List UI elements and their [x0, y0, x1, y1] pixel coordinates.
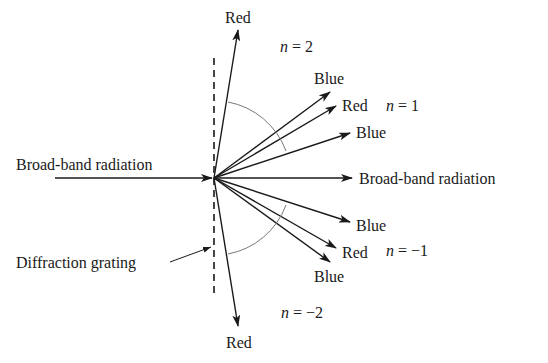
transmitted-beam-label: Broad-band radiation	[359, 170, 495, 187]
order-2-red-label: Red	[225, 9, 251, 26]
order-1-blue-outer-arrow	[214, 92, 330, 178]
order-minus1-blue-outer-label: Blue	[314, 268, 344, 285]
order-minus1-red-label: Red	[342, 244, 368, 261]
incident-beam-label: Broad-band radiation	[16, 156, 152, 173]
order-minus1-blue-outer-arrow	[214, 178, 330, 262]
upper-angle-arc	[228, 102, 286, 151]
order-minus1-label: n = −1	[386, 242, 428, 259]
order-2-red-arrow	[214, 30, 238, 178]
order-minus1-blue-inner-arrow	[214, 178, 350, 222]
order-1-red-label: Red	[342, 97, 368, 114]
order-minus1-blue-inner-label: Blue	[356, 217, 386, 234]
order-2-label: n = 2	[280, 38, 313, 55]
order-1-blue-outer-label: Blue	[314, 70, 344, 87]
order-1-blue-inner-arrow	[214, 133, 350, 178]
order-minus2-red-arrow	[214, 178, 238, 326]
order-minus1-red-arrow	[214, 178, 336, 248]
grating-pointer-arrow	[170, 247, 211, 262]
order-1-label: n = 1	[386, 97, 419, 114]
grating-label: Diffraction grating	[16, 254, 136, 272]
order-minus2-label: n = −2	[281, 304, 323, 321]
order-1-blue-inner-label: Blue	[356, 124, 386, 141]
order-1-red-arrow	[214, 106, 336, 178]
lower-angle-arc	[228, 205, 286, 254]
diffraction-diagram: Broad-band radiation Broad-band radiatio…	[0, 0, 548, 363]
order-minus2-red-label: Red	[226, 334, 252, 351]
